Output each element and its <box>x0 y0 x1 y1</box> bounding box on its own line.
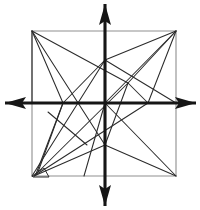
geometric-figure-canvas <box>0 0 200 210</box>
figure-svg <box>0 0 200 210</box>
